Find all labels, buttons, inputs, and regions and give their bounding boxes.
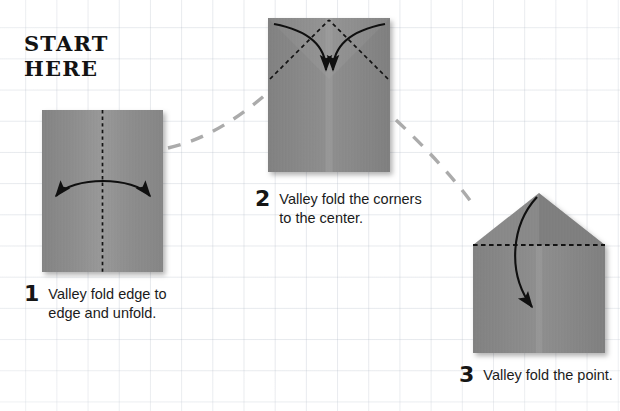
origami-instruction-poster: START HERE — [0, 0, 620, 411]
step-number-1: 1 — [24, 284, 39, 303]
step-number-2: 2 — [255, 189, 270, 208]
step-caption-text-1: Valley fold edge to edge and unfold. — [48, 285, 166, 323]
caption-step-3: 3 Valley fold the point. — [459, 366, 613, 385]
caption-step-2: 2 Valley fold the corners to the center. — [255, 190, 422, 228]
step-caption-text-2: Valley fold the corners to the center. — [279, 190, 421, 228]
step-number-3: 3 — [459, 365, 474, 384]
step-caption-text-3: Valley fold the point. — [483, 366, 613, 385]
center-spine-highlight-step-3 — [536, 245, 542, 353]
caption-step-1: 1 Valley fold edge to edge and unfold. — [24, 285, 167, 323]
paper-step-3 — [473, 193, 605, 353]
